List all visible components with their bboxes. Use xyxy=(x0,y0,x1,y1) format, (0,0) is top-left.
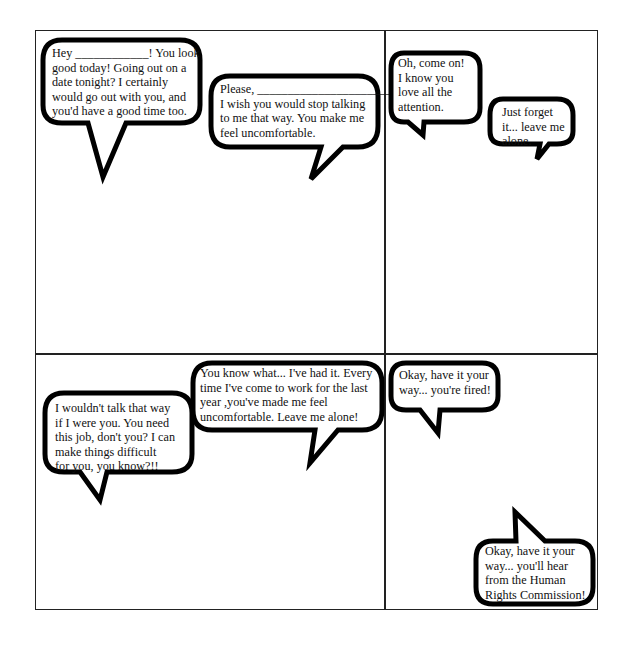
bubble-text: Oh, come on! I know you love all the att… xyxy=(398,56,465,114)
bubble-text: I wouldn't talk that way if I were you. … xyxy=(55,401,175,474)
bubble-text: You know what... I've had it. Every time… xyxy=(200,366,372,424)
bubble-text: Please, ______________________, I wish y… xyxy=(220,82,394,140)
bubble-text: Hey ____________! You look good today! G… xyxy=(52,46,200,119)
panel-divider-horizontal xyxy=(35,353,598,355)
bubble-text: Okay, have it your way... you'll hear fr… xyxy=(485,544,586,602)
bubble-text: Just forget it... leave me alone. xyxy=(502,105,565,149)
bubble-text: Okay, have it your way... you're fired! xyxy=(399,368,491,397)
